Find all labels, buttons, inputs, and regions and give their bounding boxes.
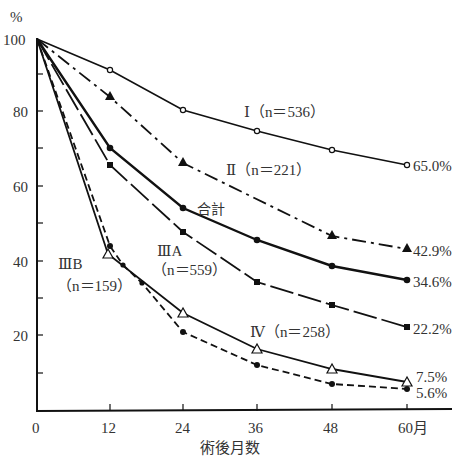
y-tick-20: 20 [13,328,28,344]
x-tick-36: 36 [248,420,264,436]
label-series-IIIB-1: ⅢB [58,256,82,272]
label-series-total: 合計 [197,202,225,217]
label-series-I: Ⅰ（n＝536） [244,104,325,120]
label-series-IV: Ⅳ（n＝258） [250,324,340,340]
end-label-I: 65.0% [413,158,452,174]
x-tick-48: 48 [323,420,338,436]
series-I [37,39,410,168]
x-axis-title: 術後月数 [200,440,260,456]
x-tick-0: 0 [32,420,40,436]
y-tick-80: 80 [13,104,28,120]
y-tick-40: 40 [13,254,28,270]
end-label-IIIA: 22.2% [413,321,452,337]
series-total [37,39,410,283]
label-series-IIIA-1: ⅢA [157,243,182,259]
y-tick-100: 100 [3,32,26,48]
y-unit-label: % [10,9,23,25]
end-label-IV: 7.5% [416,369,447,385]
x-tick-24: 24 [175,420,191,436]
end-label-IIIB: 5.6% [416,385,447,401]
label-series-IIIB-2: （n＝159） [57,278,132,294]
survival-chart: % 100 80 60 40 20 0 12 24 36 48 60月 術後月数 [0,0,473,468]
x-tick-12: 12 [101,420,116,436]
end-label-total: 34.6% [413,274,452,290]
label-series-IIIA-2: （n＝559） [152,262,227,278]
series-II [37,39,412,252]
x-tick-60: 60月 [398,420,428,436]
end-label-II: 42.9% [413,243,452,259]
label-series-II: Ⅱ（n＝221） [226,162,311,178]
y-tick-60: 60 [13,179,28,195]
